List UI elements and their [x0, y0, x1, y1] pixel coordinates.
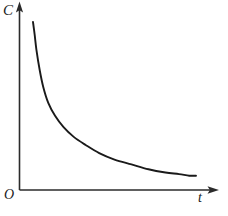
figure-container: C t O	[0, 0, 228, 216]
origin-label: O	[4, 188, 14, 202]
decay-curve	[33, 22, 196, 176]
chart-canvas	[0, 0, 228, 216]
x-axis-label: t	[198, 191, 202, 205]
y-axis-label: C	[3, 3, 13, 18]
